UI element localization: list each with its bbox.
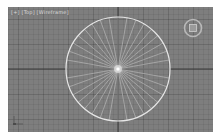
viewcube-top-icon[interactable] xyxy=(183,18,203,38)
viewport-top[interactable]: [+] [Top] [Wireframe] xyxy=(8,7,213,132)
viewport-label[interactable]: [+] [Top] [Wireframe] xyxy=(11,9,69,15)
pivot-point xyxy=(116,67,119,70)
axis-tripod-icon xyxy=(11,113,27,127)
